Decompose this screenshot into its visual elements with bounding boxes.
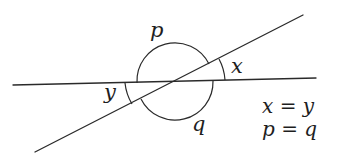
- horizontal-line: [13, 78, 316, 85]
- label-q: q: [192, 112, 205, 136]
- angle-arc-x: [219, 59, 225, 80]
- equation-x-equals-y: x = y: [262, 94, 315, 118]
- angle-arc-p: [137, 43, 209, 83]
- label-y: y: [103, 80, 117, 104]
- angle-arc-y: [125, 83, 132, 104]
- label-p: p: [150, 18, 163, 42]
- equation-p-equals-q: p = q: [262, 117, 317, 141]
- label-x: x: [231, 54, 243, 78]
- angles-diagram: p q x y x = y p = q: [0, 0, 343, 157]
